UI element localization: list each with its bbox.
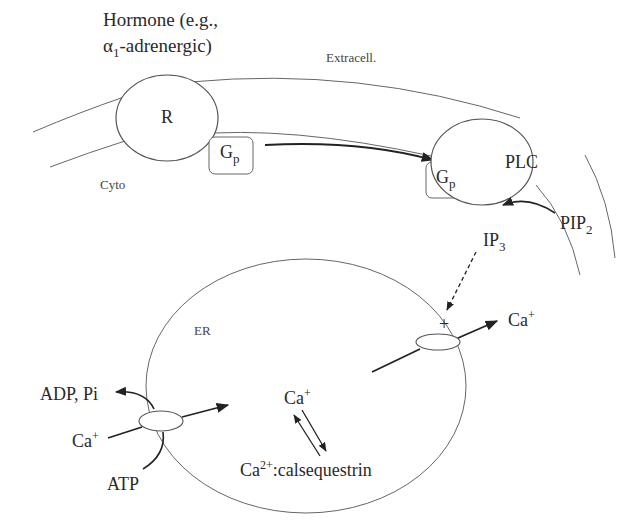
- er-label: ER: [194, 324, 211, 337]
- ca-uptake-arrow-out: [182, 405, 228, 417]
- gp-sub: p: [449, 176, 456, 191]
- calsequestrin-label: Ca2+:calsequestrin: [240, 459, 372, 479]
- gp-main: G: [220, 142, 233, 162]
- plc-label: PLC: [505, 153, 538, 171]
- serca-pump: [139, 411, 183, 431]
- hormone-label-line1: Hormone (e.g.,: [103, 10, 218, 29]
- ca-sup: +: [92, 429, 99, 443]
- ip3-main: IP: [483, 230, 499, 250]
- receptor-label: R: [161, 108, 173, 126]
- gp-label-left: Gp: [220, 143, 240, 165]
- ca-cytosol-label: Ca+: [72, 430, 99, 450]
- ca-sup: +: [304, 386, 311, 400]
- gp-sub: p: [233, 151, 240, 166]
- ca-uptake-arrow-in: [108, 427, 142, 438]
- ca-main: Ca: [284, 388, 304, 408]
- equilibrium-arrow-down: [302, 410, 326, 451]
- gp-label-right: Gp: [436, 168, 456, 190]
- diagram-canvas: Hormone (e.g., α1-adrenergic) Extracell.…: [0, 0, 640, 528]
- ip3-receptor-channel: [416, 334, 460, 350]
- hormone-label-line2: α1-adrenergic): [103, 36, 212, 59]
- pip2-main: PIP: [560, 213, 586, 233]
- adrenergic-text: -adrenergic): [119, 35, 211, 56]
- ca-sup: 2+: [260, 458, 273, 472]
- gp-translocation-arrow: [265, 144, 433, 160]
- ca-main: Ca: [240, 460, 260, 480]
- ca-main: Ca: [72, 431, 92, 451]
- pip2-sub: 2: [586, 222, 593, 237]
- ip3-sub: 3: [499, 239, 506, 254]
- gp-main: G: [436, 167, 449, 187]
- ca-lumen-label: Ca+: [284, 387, 311, 407]
- calsequestrin-text: :calsequestrin: [273, 460, 372, 480]
- ip3-label: IP3: [483, 231, 506, 253]
- atp-label: ATP: [107, 475, 139, 493]
- ca-sup: +: [528, 308, 535, 322]
- ca-release-arrow-in: [372, 349, 420, 372]
- plus-sign: +: [439, 315, 449, 333]
- cytoplasm-label: Cyto: [100, 178, 125, 191]
- ca-main: Ca: [508, 310, 528, 330]
- adp-pi-label: ADP, Pi: [40, 385, 98, 403]
- ca-release-arrow-out: [458, 321, 497, 338]
- alpha-symbol: α: [103, 35, 113, 56]
- extracellular-label: Extracell.: [326, 51, 376, 64]
- ip3-dashed-arrow: [447, 252, 476, 310]
- equilibrium-arrow-up: [294, 415, 320, 456]
- pip2-to-ip3-arrow: [503, 201, 555, 213]
- pip2-label: PIP2: [560, 214, 593, 236]
- ca-released-label: Ca+: [508, 309, 535, 329]
